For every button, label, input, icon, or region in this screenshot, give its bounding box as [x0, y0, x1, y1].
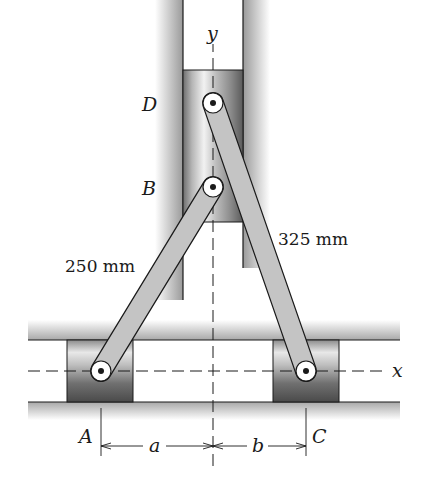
point-D-label: D: [141, 93, 157, 115]
pin-D: [203, 93, 223, 113]
point-B-label: B: [141, 177, 156, 199]
point-C-label: C: [312, 425, 327, 447]
axis-x-label: x: [392, 359, 403, 381]
dim-b-label: b: [252, 434, 264, 456]
pin-B: [203, 177, 223, 197]
point-A-label: A: [77, 425, 93, 447]
link-CD-length-label: 325 mm: [278, 229, 348, 249]
pin-C: [296, 361, 316, 381]
mechanism-diagram: y x D B A C 250 mm 325 mm a b: [0, 0, 428, 477]
axis-y-label: y: [206, 22, 218, 44]
dim-a-label: a: [149, 434, 160, 456]
pin-A: [91, 361, 111, 381]
link-AB-length-label: 250 mm: [65, 256, 135, 276]
